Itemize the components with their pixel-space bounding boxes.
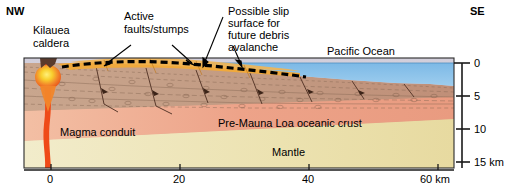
mantle-label: Mantle bbox=[272, 146, 305, 159]
cross-section-figure: NW SE Kilauea caldera Active faults/stum… bbox=[0, 0, 508, 195]
active-faults-label-line1: Active bbox=[124, 10, 154, 23]
kilauea-caldera-label-line2: caldera bbox=[33, 37, 69, 50]
pacific-ocean-label: Pacific Ocean bbox=[327, 45, 395, 58]
distance-tick-label-0: 0 bbox=[47, 173, 53, 186]
distance-tick-label-40: 40 bbox=[302, 173, 314, 186]
slip-surface-label-line4: avalanche bbox=[228, 41, 278, 54]
distance-tick-label-60: 60 km bbox=[420, 173, 450, 186]
active-faults-label-line2: faults/stumps bbox=[124, 23, 189, 36]
magma-chamber bbox=[35, 65, 61, 89]
slip-surface-label-line2: surface for bbox=[228, 17, 280, 30]
slip-surface-label-line3: future debris bbox=[228, 29, 289, 42]
slip-surface-label-line1: Possible slip bbox=[228, 5, 289, 18]
distance-tick-label-20: 20 bbox=[173, 173, 185, 186]
section-body bbox=[24, 58, 454, 168]
magma-conduit-label: Magma conduit bbox=[60, 126, 135, 139]
oceanic-crust-label: Pre-Mauna Loa oceanic crust bbox=[218, 117, 362, 130]
kilauea-caldera-label-line1: Kilauea bbox=[33, 24, 70, 37]
depth-tick-label-5: 5 bbox=[474, 90, 480, 103]
orientation-label-nw: NW bbox=[6, 5, 24, 18]
depth-tick-label-15: 15 km bbox=[474, 156, 504, 169]
depth-tick-label-0: 0 bbox=[474, 57, 480, 70]
depth-scale-bracket bbox=[454, 63, 470, 168]
orientation-label-se: SE bbox=[470, 5, 485, 18]
depth-tick-label-10: 10 bbox=[474, 123, 486, 136]
